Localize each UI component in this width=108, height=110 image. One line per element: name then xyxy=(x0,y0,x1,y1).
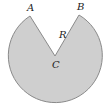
radius-label: R xyxy=(58,29,67,40)
point-b-label: B xyxy=(76,1,84,12)
point-a-label: A xyxy=(26,2,34,13)
sector-diagram: A B R C xyxy=(0,0,108,110)
center-c-label: C xyxy=(52,59,60,70)
